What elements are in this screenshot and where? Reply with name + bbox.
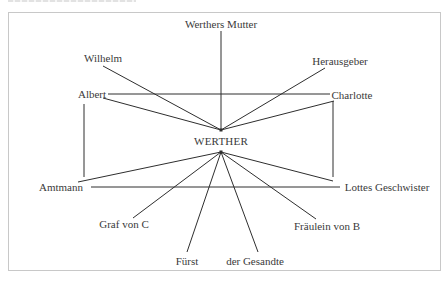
node-charlotte: Charlotte — [332, 89, 373, 102]
node-furst: Fürst — [176, 255, 199, 268]
edge-der-gesandte — [221, 152, 258, 252]
node-amtmann: Amtmann — [39, 181, 83, 194]
edge-furst — [187, 152, 221, 252]
edge-lottes-geschwister — [221, 152, 333, 181]
hub-point-1 — [220, 151, 223, 154]
node-graf-von-c: Graf von C — [99, 218, 149, 231]
edge-herausgeber — [221, 68, 325, 130]
node-der-gesandte: der Gesandte — [226, 255, 284, 268]
node-lottes-geschwister: Lottes Geschwister — [345, 181, 430, 194]
node-werthers-mutter: Werthers Mutter — [185, 18, 257, 31]
edge-graf-von-c — [133, 152, 221, 218]
edge-amtmann — [78, 152, 221, 182]
node-fraulein-von-b: Fräulein von B — [294, 220, 360, 233]
edge-charlotte — [221, 101, 334, 130]
hub-point-0 — [220, 129, 223, 132]
edge-wilhelm — [103, 66, 221, 130]
edge-fraulein-von-b — [221, 152, 316, 219]
node-wilhelm: Wilhelm — [84, 52, 122, 65]
edge-albert — [103, 98, 221, 130]
node-herausgeber: Herausgeber — [312, 55, 368, 68]
node-werther: WERTHER — [194, 135, 248, 148]
node-albert: Albert — [78, 88, 106, 101]
